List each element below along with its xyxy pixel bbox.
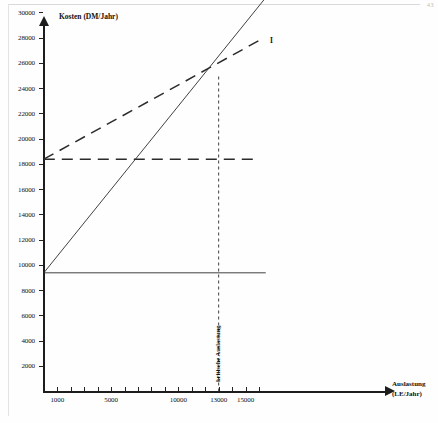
y-tick — [39, 38, 43, 39]
x-tick — [138, 387, 139, 391]
page-border-top — [8, 4, 420, 5]
series-label-i: I — [270, 36, 273, 45]
y-tick-label: 14000 — [1, 211, 35, 219]
y-tick — [39, 240, 43, 241]
x-axis-title-line1: Auslastung — [392, 380, 425, 390]
y-axis-title: Kosten (DM/Jahr) — [59, 12, 118, 21]
x-tick — [57, 387, 58, 391]
y-tick-label: 22000 — [1, 110, 35, 118]
y-tick-label: 28000 — [1, 34, 35, 42]
x-tick — [98, 387, 99, 391]
y-tick-label: 12000 — [1, 236, 35, 244]
x-axis-line — [43, 391, 387, 393]
y-tick — [39, 164, 43, 165]
y-tick-label: 8000 — [1, 287, 35, 295]
y-tick-label: 24000 — [1, 85, 35, 93]
x-tick — [246, 387, 247, 391]
critical-load-annotation: kritische Auslastung — [214, 325, 221, 382]
y-tick — [39, 214, 43, 215]
x-tick-label: 1000 — [37, 396, 77, 404]
x-tick — [165, 387, 166, 391]
x-tick — [178, 387, 179, 391]
y-tick — [39, 366, 43, 367]
x-tick — [205, 387, 206, 391]
x-tick — [84, 387, 85, 391]
y-tick-label: 6000 — [1, 312, 35, 320]
x-tick-label: 10000 — [158, 396, 198, 404]
y-tick — [39, 113, 43, 114]
x-tick — [125, 387, 126, 391]
chart-page: 43 Kosten (DM/Jahr) Auslastung (LE/Jahr)… — [0, 0, 438, 423]
x-tick-label: 5000 — [91, 396, 131, 404]
x-tick — [192, 387, 193, 391]
y-tick — [39, 189, 43, 190]
y-tick-label: 10000 — [1, 261, 35, 269]
x-axis-title: Auslastung (LE/Jahr) — [392, 380, 425, 399]
y-tick-label: 2000 — [1, 362, 35, 370]
y-tick — [39, 139, 43, 140]
series-line-i — [44, 41, 259, 160]
y-tick-label: 4000 — [1, 337, 35, 345]
y-tick-label: 26000 — [1, 59, 35, 67]
y-tick-label: 20000 — [1, 135, 35, 143]
series-label-ii: II — [271, 0, 277, 2]
x-tick — [259, 387, 260, 391]
y-tick — [39, 265, 43, 266]
y-tick — [39, 290, 43, 291]
y-tick-label: 16000 — [1, 186, 35, 194]
y-tick — [39, 88, 43, 89]
x-axis-title-line2: (LE/Jahr) — [392, 390, 425, 400]
y-axis-line — [43, 24, 45, 393]
y-tick — [39, 63, 43, 64]
x-tick — [232, 387, 233, 391]
x-tick — [71, 387, 72, 391]
y-tick-label: 18000 — [1, 160, 35, 168]
y-tick — [39, 341, 43, 342]
x-tick-label: 15000 — [226, 396, 266, 404]
page-corner-mark: 43 — [427, 2, 434, 8]
x-tick — [219, 387, 220, 391]
series-line-ii — [44, 0, 266, 273]
y-tick — [39, 12, 43, 13]
x-tick — [151, 387, 152, 391]
y-tick — [39, 315, 43, 316]
x-tick — [111, 387, 112, 391]
y-tick-label: 30000 — [1, 9, 35, 17]
